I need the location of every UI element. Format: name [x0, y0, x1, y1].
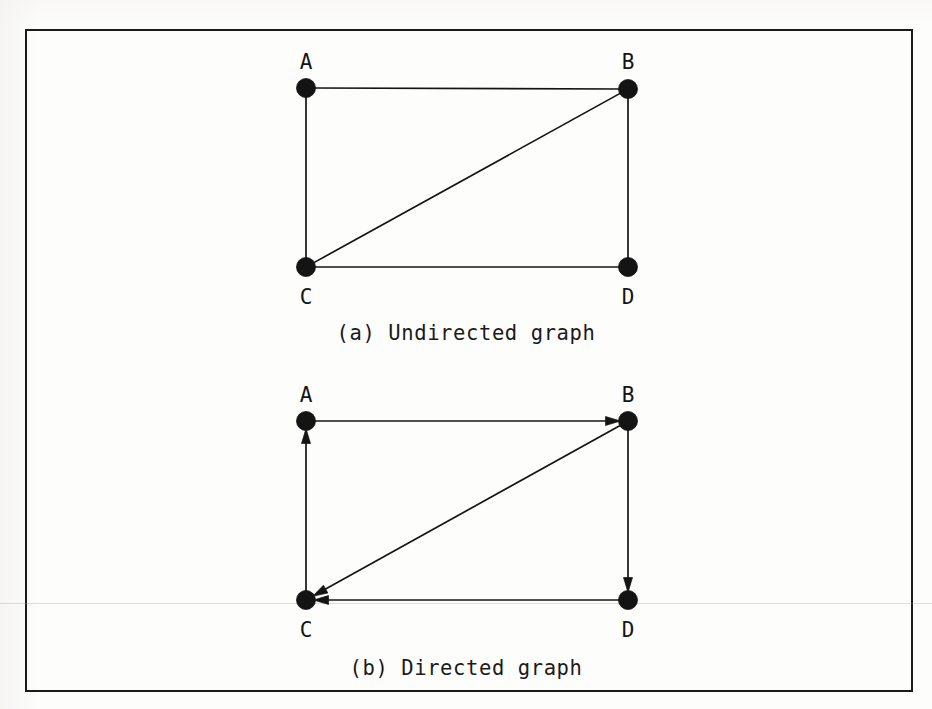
node-label-b-undirected: B — [622, 52, 635, 73]
caption-undirected-graph: (a) Undirected graph — [337, 323, 596, 344]
node-label-c-undirected: C — [300, 287, 313, 308]
node-label-d-undirected: D — [622, 287, 635, 308]
figure-border-frame — [25, 29, 913, 692]
node-label-d-directed: D — [622, 620, 635, 641]
node-label-b-directed: B — [622, 385, 635, 406]
node-label-a-undirected: A — [300, 52, 313, 73]
node-label-a-directed: A — [300, 385, 313, 406]
caption-directed-graph: (b) Directed graph — [350, 658, 583, 679]
node-label-c-directed: C — [300, 620, 313, 641]
figure-page: A B C D (a) Undirected graph A B C D (b)… — [0, 0, 932, 709]
